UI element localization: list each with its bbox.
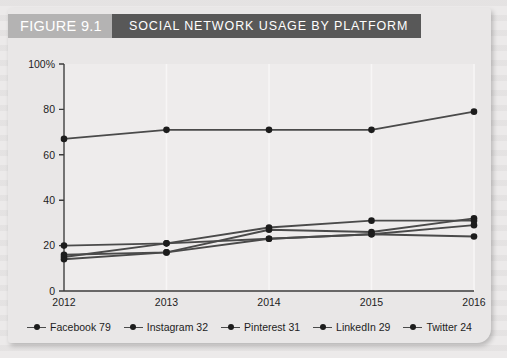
data-point-facebook-2016 [471,108,478,115]
data-point-facebook-2014 [266,127,273,134]
legend-item-label: LinkedIn 29 [336,322,390,333]
legend-item[interactable]: Twitter 24 [403,322,472,333]
legend-item-label: Instagram 32 [147,322,208,333]
data-point-linkedin-2013 [163,240,170,247]
legend-line-dot-icon [221,323,240,332]
figure-title-block: SOCIAL NETWORK USAGE BY PLATFORM [112,14,421,38]
legend-item-label: Facebook 79 [50,322,111,333]
legend-item[interactable]: Instagram 32 [124,322,208,333]
figure-header: FIGURE 9.1 SOCIAL NETWORK USAGE BY PLATF… [8,14,491,38]
chart-legend: Facebook 79Instagram 32Pinterest 31Linke… [8,322,491,333]
data-point-twitter-2014 [266,235,273,242]
data-point-twitter-2016 [471,233,478,240]
y-tick-label: 20 [43,239,55,251]
legend-item[interactable]: Facebook 79 [27,322,111,333]
y-tick-label: 60 [43,149,55,161]
legend-line-dot-icon [124,323,143,332]
data-point-linkedin-2012 [61,242,68,249]
data-point-facebook-2012 [61,136,68,143]
data-point-twitter-2015 [368,231,375,238]
legend-item[interactable]: LinkedIn 29 [313,322,390,333]
y-tick-label: 80 [43,103,55,115]
x-tick-label-2012: 2012 [52,296,76,308]
data-point-facebook-2013 [163,127,170,134]
legend-line-dot-icon [313,323,332,332]
chart-plot-area: 020406080100%20122013201420152016 [8,44,491,312]
x-tick-label-2013: 2013 [155,296,179,308]
y-tick-label: 40 [43,194,55,206]
legend-item-label: Twitter 24 [426,322,472,333]
data-point-pinterest-2014 [266,224,273,231]
data-point-twitter-2012 [61,251,68,258]
legend-item[interactable]: Pinterest 31 [221,322,300,333]
data-point-pinterest-2015 [368,217,375,224]
x-tick-label-2015: 2015 [360,296,384,308]
legend-line-dot-icon [27,323,46,332]
x-tick-label-2014: 2014 [257,296,281,308]
x-tick-label-2016: 2016 [462,296,486,308]
data-point-twitter-2013 [163,249,170,256]
figure-number-block: FIGURE 9.1 [8,14,112,38]
line-chart-svg: 020406080100%20122013201420152016 [8,44,491,312]
y-tick-label: 100% [28,58,55,70]
figure-panel: FIGURE 9.1 SOCIAL NETWORK USAGE BY PLATF… [8,8,491,343]
data-point-linkedin-2016 [471,222,478,229]
legend-line-dot-icon [403,323,422,332]
legend-item-label: Pinterest 31 [244,322,300,333]
y-tick-label: 0 [49,285,55,297]
data-point-facebook-2015 [368,127,375,134]
